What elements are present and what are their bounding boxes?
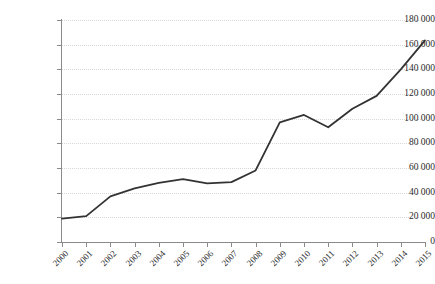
y-tick-label: 0 <box>383 237 435 247</box>
y-tick-label: 100 000 <box>383 114 435 124</box>
y-tick-label: 60 000 <box>383 163 435 173</box>
y-tick-mark <box>57 242 61 243</box>
x-tick-mark <box>159 242 160 247</box>
x-tick-mark <box>135 242 136 247</box>
y-tick-mark <box>57 45 61 46</box>
y-tick-mark <box>57 217 61 218</box>
y-tick-mark <box>57 119 61 120</box>
y-tick-mark <box>57 94 61 95</box>
x-tick-mark <box>231 242 232 247</box>
x-tick-mark <box>304 242 305 247</box>
y-tick-label: 160 000 <box>383 40 435 50</box>
y-tick-mark <box>57 193 61 194</box>
y-tick-mark <box>57 20 61 21</box>
x-tick-mark <box>328 242 329 247</box>
x-tick-mark <box>401 242 402 247</box>
x-tick-mark <box>110 242 111 247</box>
x-tick-mark <box>425 242 426 247</box>
y-tick-label: 80 000 <box>383 138 435 148</box>
x-tick-mark <box>256 242 257 247</box>
x-tick-mark <box>377 242 378 247</box>
y-tick-label: 120 000 <box>383 89 435 99</box>
y-tick-label: 40 000 <box>383 188 435 198</box>
x-tick-mark <box>280 242 281 247</box>
y-tick-mark <box>57 143 61 144</box>
series-line-1 <box>62 40 425 218</box>
line-chart-figure: 180 000160 000140 000120 000100 00080 00… <box>0 0 435 284</box>
y-tick-label: 140 000 <box>383 64 435 74</box>
x-tick-mark <box>207 242 208 247</box>
y-tick-mark <box>57 69 61 70</box>
series-line-layer <box>0 0 435 284</box>
x-tick-mark <box>352 242 353 247</box>
x-tick-mark <box>62 242 63 247</box>
y-tick-label: 180 000 <box>383 15 435 25</box>
y-tick-mark <box>57 168 61 169</box>
y-tick-label: 20 000 <box>383 212 435 222</box>
x-tick-mark <box>86 242 87 247</box>
x-tick-mark <box>183 242 184 247</box>
